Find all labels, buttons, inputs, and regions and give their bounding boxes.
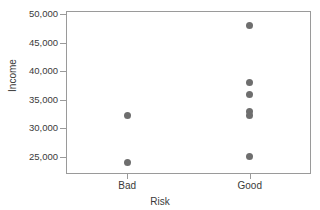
x-axis-tick-label-good: Good (220, 181, 280, 191)
y-axis-tick-label: 40,000 (29, 66, 58, 76)
x-axis-tick (250, 174, 251, 179)
y-axis-tick (60, 43, 66, 44)
y-axis-tick (60, 71, 66, 72)
y-axis-tick (60, 100, 66, 101)
x-axis-tick-label-bad: Bad (97, 181, 157, 191)
scatter-chart: Income 25,00030,00035,00040,00045,00050,… (0, 0, 320, 210)
y-axis-tick-label: 50,000 (29, 9, 58, 19)
y-axis-tick-label: 25,000 (29, 152, 58, 162)
x-axis-title: Risk (0, 196, 320, 207)
y-axis-tick-label: 30,000 (29, 123, 58, 133)
y-axis-tick-label: 45,000 (29, 38, 58, 48)
data-point (246, 91, 253, 98)
plot-area (66, 11, 311, 174)
y-axis-title: Income (7, 46, 18, 106)
y-axis-tick-label: 35,000 (29, 95, 58, 105)
y-axis-tick (60, 14, 66, 15)
data-point (124, 159, 131, 166)
x-axis-tick (127, 174, 128, 179)
y-axis-tick (60, 128, 66, 129)
y-axis-tick (60, 157, 66, 158)
